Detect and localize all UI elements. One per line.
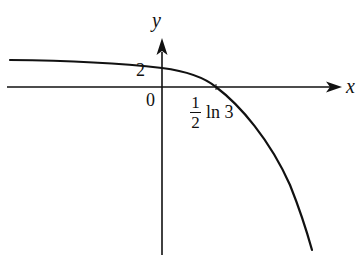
x-intercept-fraction: 1 2 — [190, 94, 201, 131]
function-curve — [10, 60, 312, 250]
graph-canvas — [0, 0, 362, 261]
x-axis-label: x — [346, 76, 355, 96]
graph-figure: y x 0 2 1 2 ln 3 — [0, 0, 362, 261]
y-axis-label: y — [152, 10, 161, 30]
origin-label: 0 — [146, 91, 155, 109]
y-intercept-label: 2 — [136, 61, 145, 79]
fraction-numerator: 1 — [191, 94, 200, 111]
y-axis — [157, 38, 168, 255]
x-intercept-ln3-label: ln 3 — [206, 103, 234, 121]
x-axis — [7, 82, 342, 93]
fraction-denominator: 2 — [191, 114, 200, 131]
